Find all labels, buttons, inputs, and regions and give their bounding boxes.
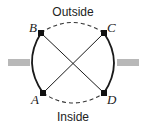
label-outside: Outside	[52, 5, 94, 19]
point-b	[38, 30, 44, 36]
label-d: D	[106, 92, 117, 107]
label-c: C	[107, 20, 116, 35]
circuit-diagram: B C A D Outside Inside	[0, 0, 147, 128]
right-arc	[104, 33, 114, 93]
label-a: A	[30, 92, 39, 107]
label-b: B	[29, 20, 37, 35]
left-arc	[32, 33, 43, 93]
right-bar	[117, 59, 139, 66]
top-dashed-arc	[41, 23, 104, 34]
label-inside: Inside	[57, 110, 89, 124]
left-bar	[8, 59, 30, 66]
point-a	[40, 90, 46, 96]
bottom-dashed-arc	[43, 93, 104, 103]
